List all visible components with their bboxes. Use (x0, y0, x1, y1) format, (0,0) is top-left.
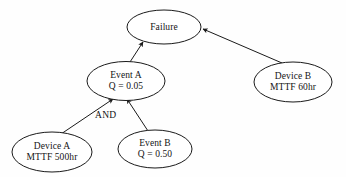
and-gate-label: AND (95, 110, 116, 121)
device-b-node-ellipse (254, 62, 332, 102)
failure-node-ellipse (127, 10, 201, 44)
edge-device-b-to-failure (203, 29, 282, 63)
device-a-node-ellipse (12, 132, 92, 172)
nodes-layer (12, 10, 332, 172)
event-a-node-ellipse (87, 62, 165, 101)
diagram-canvas-svg (0, 0, 346, 177)
event-b-node-ellipse (118, 130, 192, 168)
edge-event-a-to-failure (130, 42, 143, 62)
edge-event-b-to-event-a (127, 99, 148, 131)
fault-tree-diagram: FailureEvent AQ = 0.05Device BMTTF 60hrD… (0, 0, 346, 177)
